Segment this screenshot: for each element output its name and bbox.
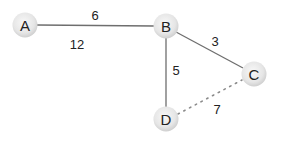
node-d: D bbox=[154, 107, 179, 132]
node-b: B bbox=[154, 14, 179, 39]
edge-b-c bbox=[176, 32, 243, 68]
node-b-label: B bbox=[161, 18, 171, 35]
edge-a-b bbox=[37, 25, 154, 26]
node-a-label: A bbox=[20, 17, 30, 34]
node-d-label: D bbox=[161, 111, 172, 128]
weight-label-12: 12 bbox=[70, 37, 84, 52]
graph-diagram: A B C D 6 12 3 5 7 bbox=[0, 0, 285, 141]
weight-label-a-b: 6 bbox=[91, 8, 98, 23]
node-c: C bbox=[242, 62, 267, 87]
node-c-label: C bbox=[249, 66, 260, 83]
edge-d-c bbox=[178, 80, 242, 114]
node-a: A bbox=[13, 13, 38, 38]
weight-label-d-c: 7 bbox=[213, 102, 220, 117]
weight-label-b-d: 5 bbox=[172, 63, 179, 78]
weight-label-b-c: 3 bbox=[211, 34, 218, 49]
